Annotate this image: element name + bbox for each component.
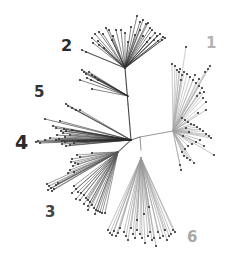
leaf-node [51, 190, 53, 192]
leaf-node [60, 130, 62, 132]
leaf-node [44, 139, 46, 141]
leaf-node [77, 140, 79, 142]
leaf-node [142, 19, 144, 21]
leaf-node [102, 33, 104, 35]
clade-label-1: 1 [206, 36, 216, 51]
leaf-node [134, 34, 136, 36]
leaf-node [101, 212, 103, 214]
leaf-node [76, 154, 78, 156]
leaf-node [156, 35, 158, 37]
leaf-node [95, 209, 97, 211]
branch-clade-2 [95, 34, 125, 68]
leaf-node [79, 156, 81, 158]
leaf-node [39, 142, 41, 144]
clade-label-4: 4 [15, 133, 28, 152]
leaf-node [181, 74, 183, 76]
leaf-node [179, 164, 181, 166]
leaf-node [77, 191, 79, 193]
leaf-node [91, 204, 93, 206]
leaf-node [71, 107, 73, 109]
leaf-node [201, 87, 203, 89]
leaf-node [80, 192, 82, 194]
leaf-node [196, 126, 198, 128]
leaf-node [115, 29, 117, 31]
leaf-node [159, 33, 161, 35]
leaf-node [109, 232, 111, 234]
leaf-node [124, 32, 126, 34]
leaf-node [119, 227, 121, 229]
leaf-node [35, 141, 37, 143]
leaf-node [73, 171, 75, 173]
leaf-node [139, 29, 141, 31]
leaf-node [171, 63, 173, 65]
leaf-node [120, 29, 122, 31]
leaf-node [64, 136, 66, 138]
leaf-node [205, 133, 207, 135]
leaf-node [204, 71, 206, 73]
leaf-node [186, 157, 188, 159]
leaf-node [44, 118, 46, 120]
leaf-node [166, 239, 168, 241]
leaf-node [67, 105, 69, 107]
leaf-node [115, 235, 117, 237]
leaf-node [50, 187, 52, 189]
leaf-node [183, 71, 185, 73]
leaf-node [69, 169, 71, 171]
leaf-node [92, 42, 94, 44]
leaf-node [111, 234, 113, 236]
leaf-node [191, 143, 193, 145]
leaf-node [103, 47, 105, 49]
leaf-node [83, 194, 85, 196]
leaf-node [52, 125, 54, 127]
leaf-node [55, 184, 57, 186]
branch-clade-1a [172, 64, 173, 131]
leaf-node [79, 199, 81, 201]
leaf-node [198, 78, 200, 80]
leaf-node [195, 82, 197, 84]
leaf-node [154, 32, 156, 34]
leaf-node [83, 71, 85, 73]
clade-label-2: 2 [61, 38, 72, 54]
leaf-node [99, 211, 101, 213]
leaf-node [58, 138, 60, 140]
leaf-node [189, 76, 191, 78]
leaf-node [81, 49, 83, 51]
leaf-node [91, 152, 93, 154]
leaf-node [199, 92, 201, 94]
leaf-node [207, 68, 209, 70]
leaf-node [183, 155, 185, 157]
leaf-node [125, 235, 127, 237]
leaf-node [132, 233, 134, 235]
leaf-node [71, 192, 73, 194]
leaf-node [75, 188, 77, 190]
leaf-node [184, 148, 186, 150]
leaf-node [185, 46, 187, 48]
leaf-node [79, 109, 81, 111]
leaf-node [153, 237, 155, 239]
leaf-node [134, 237, 136, 239]
leaf-node [94, 33, 96, 35]
leaf-node [94, 213, 96, 215]
branch-clade-2b [91, 80, 128, 96]
branch-clade-2b [98, 80, 128, 96]
leaf-node [112, 35, 114, 37]
leaf-node [69, 144, 71, 146]
leaf-node [75, 198, 77, 200]
leaf-node [146, 41, 148, 43]
leaf-node [198, 85, 200, 87]
leaf-node [53, 188, 55, 190]
leaf-node [85, 51, 87, 53]
leaf-node [202, 97, 204, 99]
leaf-node [90, 79, 92, 81]
leaf-node [57, 182, 59, 184]
backbone-branch [140, 131, 173, 137]
branch-clade-2 [106, 28, 125, 68]
leaf-node [161, 39, 163, 41]
leaf-node [55, 139, 57, 141]
leaf-node [151, 29, 153, 31]
leaf-node [37, 140, 39, 142]
leaf-node [164, 229, 166, 231]
leaf-node [69, 134, 71, 136]
leaf-node [149, 27, 151, 29]
leaf-node [93, 207, 95, 209]
